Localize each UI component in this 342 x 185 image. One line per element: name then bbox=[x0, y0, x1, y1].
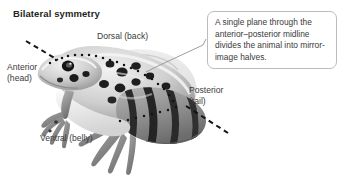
label-ventral: Ventral (belly) bbox=[40, 133, 93, 144]
label-anterior-line1: Anterior bbox=[7, 62, 37, 73]
label-posterior-line1: Posterior bbox=[189, 85, 223, 96]
symmetry-plane-anterior-dash bbox=[26, 41, 58, 60]
label-posterior: Posterior (tail) bbox=[189, 85, 223, 106]
label-dorsal: Dorsal (back) bbox=[97, 31, 148, 42]
bilateral-symmetry-figure: Bilateral symmetry bbox=[0, 0, 342, 185]
label-anterior-line2: (head) bbox=[7, 73, 37, 84]
callout-box: A single plane through the anterior–post… bbox=[207, 11, 337, 69]
label-posterior-line2: (tail) bbox=[189, 96, 223, 107]
callout-text: A single plane through the anterior–post… bbox=[215, 17, 335, 63]
label-anterior: Anterior (head) bbox=[7, 62, 37, 83]
